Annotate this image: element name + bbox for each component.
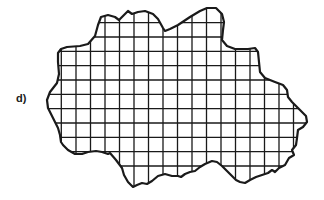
square-grid [0, 0, 324, 200]
gridded-region-diagram [0, 0, 324, 200]
